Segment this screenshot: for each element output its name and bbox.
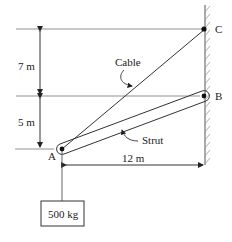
point-label-a: A xyxy=(48,150,56,162)
cable-leader-arrow xyxy=(121,70,132,86)
point-label-b: B xyxy=(215,90,222,102)
cable xyxy=(62,29,205,149)
joint-c xyxy=(201,26,206,31)
strut-label: Strut xyxy=(142,134,163,146)
joint-b xyxy=(202,94,207,99)
dimension-12m: 12 m xyxy=(122,152,145,164)
cable-label: Cable xyxy=(115,56,141,68)
joint-a xyxy=(60,147,65,152)
statics-diagram: 7 m 5 m C B A Cable Strut 12 m 500 kg xyxy=(0,0,232,242)
mass-label: 500 kg xyxy=(48,208,79,220)
strut xyxy=(57,91,210,155)
dimension-7m: 7 m xyxy=(18,60,35,72)
point-label-c: C xyxy=(215,23,222,35)
dimension-5m: 5 m xyxy=(18,116,35,128)
